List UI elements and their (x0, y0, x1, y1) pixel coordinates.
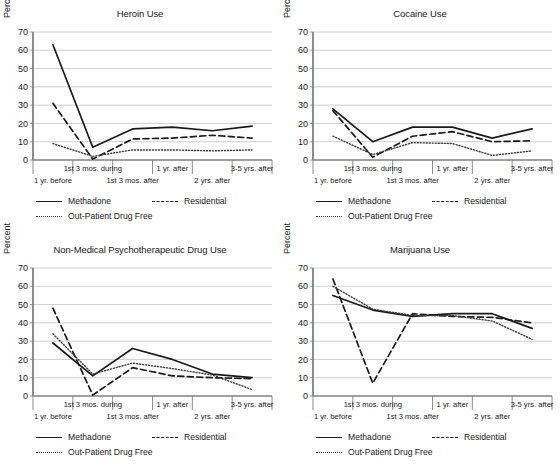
y-axis-tick-label: 0 (23, 155, 28, 165)
solid-line-swatch-icon (36, 433, 62, 441)
series-line-out-patient-drug-free (53, 334, 252, 390)
y-axis-tick-label: 60 (18, 45, 28, 55)
legend-item-residential: Residential (432, 432, 507, 442)
legend-item-methadone: Methadone (316, 196, 428, 206)
legend-label: Methadone (348, 432, 391, 442)
y-axis-tick-label: 70 (298, 27, 308, 37)
legend-label: Out-Patient Drug Free (68, 447, 153, 457)
x-axis-category-label: 1 yr. after (157, 164, 189, 173)
series-line-methadone (333, 295, 532, 328)
y-axis-tick-label: 40 (18, 82, 28, 92)
y-axis-tick-label: 20 (18, 355, 28, 365)
x-axis-category-label: 3-5 yrs. after (511, 400, 554, 409)
chart-legend: Methadone Residential Out-Patient Drug F… (0, 193, 280, 223)
y-axis-tick-label: 50 (298, 64, 308, 74)
series-line-residential (333, 279, 532, 383)
series-line-methadone (53, 45, 252, 147)
series-line-methadone (333, 109, 532, 142)
x-axis-category-label: 1st 3 mos. during (344, 164, 402, 173)
x-axis-category-label: 3-5 yrs. after (231, 164, 274, 173)
y-axis-tick-label: 60 (18, 281, 28, 291)
y-axis-tick-label: 30 (298, 100, 308, 110)
x-axis-category-label: 1 yr. after (157, 400, 189, 409)
x-axis-category-label: 1st 3 mos. after (386, 412, 439, 421)
x-axis-category-label: 2 yrs. after (194, 176, 230, 185)
x-axis-category-label: 1st 3 mos. during (344, 400, 402, 409)
y-axis-tick-label: 50 (18, 64, 28, 74)
chart-panel-cocaine: Cocaine Use Percent 0102030405060701 yr.… (280, 0, 560, 236)
x-axis-category-label: 1 yr. after (437, 164, 469, 173)
x-axis-category-label: 2 yrs. after (474, 176, 510, 185)
legend-label: Methadone (68, 196, 111, 206)
legend-label: Residential (184, 432, 227, 442)
plot-svg: 0102030405060701 yr. before1st 3 mos. du… (0, 236, 280, 426)
y-axis-tick-label: 70 (298, 263, 308, 273)
x-axis-category-label: 1 yr. before (314, 412, 352, 421)
y-axis-tick-label: 10 (298, 373, 308, 383)
y-axis-tick-label: 40 (298, 82, 308, 92)
solid-line-swatch-icon (36, 197, 62, 205)
legend-label: Out-Patient Drug Free (68, 211, 153, 221)
chart-figure-grid: Heroin Use Percent 0102030405060701 yr. … (0, 0, 560, 472)
y-axis-tick-label: 30 (18, 100, 28, 110)
legend-item-methadone: Methadone (36, 432, 148, 442)
legend-item-residential: Residential (152, 196, 227, 206)
y-axis-tick-label: 50 (18, 300, 28, 310)
x-axis-category-label: 1st 3 mos. during (64, 400, 122, 409)
dashed-line-swatch-icon (432, 433, 458, 441)
y-axis-tick-label: 40 (18, 318, 28, 328)
plot-svg: 0102030405060701 yr. before1st 3 mos. du… (280, 236, 560, 426)
x-axis-category-label: 1 yr. before (34, 412, 72, 421)
y-axis-tick-label: 0 (303, 155, 308, 165)
y-axis-tick-label: 30 (18, 336, 28, 346)
x-axis-category-label: 3-5 yrs. after (231, 400, 274, 409)
legend-item-outpatient: Out-Patient Drug Free (316, 447, 433, 457)
legend-item-methadone: Methadone (36, 196, 148, 206)
y-axis-tick-label: 10 (18, 137, 28, 147)
dashed-line-swatch-icon (432, 197, 458, 205)
y-axis-tick-label: 70 (18, 27, 28, 37)
dotted-line-swatch-icon (316, 212, 342, 220)
series-line-out-patient-drug-free (333, 136, 532, 155)
y-axis-tick-label: 70 (18, 263, 28, 273)
plot-svg: 0102030405060701 yr. before1st 3 mos. du… (0, 0, 280, 190)
x-axis-category-label: 1st 3 mos. after (386, 176, 439, 185)
x-axis-category-label: 2 yrs. after (474, 412, 510, 421)
legend-label: Out-Patient Drug Free (348, 211, 433, 221)
x-axis-category-label: 1st 3 mos. after (106, 412, 159, 421)
solid-line-swatch-icon (316, 433, 342, 441)
y-axis-tick-label: 30 (298, 336, 308, 346)
legend-item-outpatient: Out-Patient Drug Free (36, 447, 153, 457)
y-axis-tick-label: 20 (298, 119, 308, 129)
y-axis-tick-label: 10 (298, 137, 308, 147)
dotted-line-swatch-icon (36, 448, 62, 456)
chart-panel-heroin: Heroin Use Percent 0102030405060701 yr. … (0, 0, 280, 236)
legend-item-outpatient: Out-Patient Drug Free (36, 211, 153, 221)
chart-legend: Methadone Residential Out-Patient Drug F… (280, 429, 560, 459)
legend-label: Methadone (68, 432, 111, 442)
dashed-line-swatch-icon (152, 433, 178, 441)
y-axis-tick-label: 20 (18, 119, 28, 129)
y-axis-tick-label: 60 (298, 281, 308, 291)
dashed-line-swatch-icon (152, 197, 178, 205)
series-line-residential (53, 308, 252, 395)
y-axis-tick-label: 0 (23, 391, 28, 401)
legend-label: Residential (464, 432, 507, 442)
x-axis-category-label: 1st 3 mos. after (106, 176, 159, 185)
x-axis-category-label: 2 yrs. after (194, 412, 230, 421)
dotted-line-swatch-icon (36, 212, 62, 220)
legend-label: Out-Patient Drug Free (348, 447, 433, 457)
y-axis-tick-label: 10 (18, 373, 28, 383)
legend-item-methadone: Methadone (316, 432, 428, 442)
chart-panel-psychotherapeutic: Non-Medical Psychotherapeutic Drug Use P… (0, 236, 280, 472)
y-axis-tick-label: 40 (298, 318, 308, 328)
chart-legend: Methadone Residential Out-Patient Drug F… (280, 193, 560, 223)
x-axis-category-label: 1st 3 mos. during (64, 164, 122, 173)
legend-item-residential: Residential (152, 432, 227, 442)
legend-item-residential: Residential (432, 196, 507, 206)
series-line-out-patient-drug-free (333, 286, 532, 339)
chart-legend: Methadone Residential Out-Patient Drug F… (0, 429, 280, 459)
x-axis-category-label: 1 yr. before (34, 176, 72, 185)
legend-item-outpatient: Out-Patient Drug Free (316, 211, 433, 221)
x-axis-category-label: 1 yr. after (437, 400, 469, 409)
